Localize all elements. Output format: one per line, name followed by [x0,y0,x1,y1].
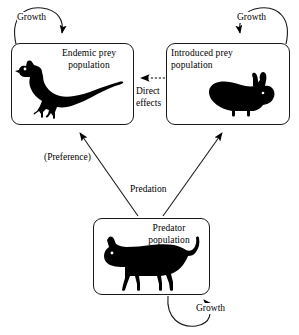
edge-label-preference: (Preference) [44,152,91,163]
edge-label-growth-predator: Growth [196,303,225,314]
edge-label-growth-endemic-prey: Growth [17,12,46,23]
edge-label-growth-introduced-prey: Growth [237,12,266,23]
preference-arrow [80,133,138,216]
node-label-introduced-prey: Introduced prey population [171,48,257,71]
node-label-predator: Predator population [131,223,207,246]
rabbit-silhouette-icon [205,72,281,120]
predation-arrow [163,133,222,216]
edge-label-direct-effects: Direct effects [136,86,161,109]
edge-label-predation: Predation [130,184,166,195]
node-label-endemic-prey: Endemic prey population [48,48,130,71]
predator-prey-diagram: Endemic prey population Introduced prey … [0,0,299,335]
